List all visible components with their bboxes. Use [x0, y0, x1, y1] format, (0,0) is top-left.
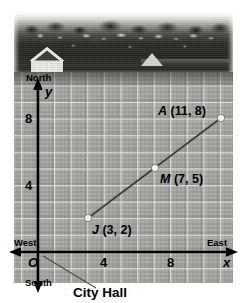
x-axis — [9, 247, 238, 257]
city-map-figure: North South West East y x O 8 4 4 8 A (1… — [0, 0, 245, 303]
point-marker-m[interactable] — [151, 164, 158, 171]
y-axis-label: y — [45, 85, 52, 98]
point-letter-a: A — [158, 104, 167, 118]
point-label-j: J (3, 2) — [92, 224, 132, 237]
point-letter-j: J — [92, 223, 99, 237]
point-label-a: A (11, 8) — [158, 105, 206, 118]
origin-label: O — [28, 256, 38, 269]
point-coords-a: (11, 8) — [171, 104, 206, 118]
compass-label-west: West — [14, 238, 37, 248]
city-hall-callout-label: City Hall — [73, 286, 127, 300]
point-marker-j[interactable] — [84, 214, 91, 221]
x-tick-label-8: 8 — [167, 256, 174, 269]
compass-label-south: South — [25, 278, 52, 288]
x-axis-west-arrow — [9, 247, 21, 257]
compass-label-north: North — [26, 73, 51, 83]
y-tick-label-4: 4 — [25, 179, 32, 192]
compass-label-east: East — [207, 238, 227, 248]
y-tick-label-8: 8 — [25, 112, 32, 125]
point-label-m: M (7, 5) — [160, 173, 203, 186]
point-coords-j: (3, 2) — [102, 223, 131, 237]
x-tick-label-4: 4 — [100, 256, 107, 269]
point-marker-a[interactable] — [217, 114, 224, 121]
x-axis-label: x — [223, 256, 230, 269]
point-letter-m: M — [160, 172, 170, 186]
point-coords-m: (7, 5) — [174, 172, 203, 186]
